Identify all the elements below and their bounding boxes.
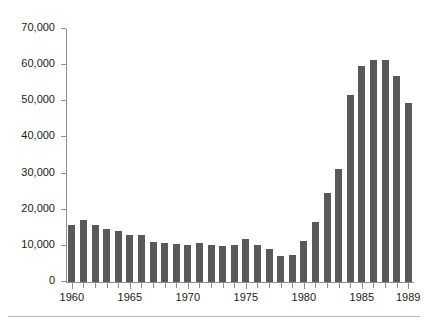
- y-axis-tick: 60,000: [61, 64, 66, 65]
- bar: [347, 95, 354, 282]
- x-axis-major-tick: [246, 283, 247, 289]
- bar: [138, 235, 145, 282]
- x-axis-minor-tick: [397, 283, 398, 288]
- footer-divider: [8, 316, 420, 317]
- chart-figure: 010,00020,00030,00040,00050,00060,00070,…: [0, 0, 428, 327]
- x-axis-tick-label: 1970: [176, 291, 200, 304]
- x-axis-tick-label: 1980: [292, 291, 316, 304]
- bar: [358, 66, 365, 282]
- bar: [289, 255, 296, 282]
- x-axis-major-tick: [362, 283, 363, 289]
- x-axis-minor-tick: [118, 283, 119, 288]
- bar: [161, 243, 168, 282]
- y-axis-tick-label: 60,000: [21, 57, 55, 70]
- x-axis-minor-tick: [327, 283, 328, 288]
- bar: [266, 249, 273, 282]
- y-axis-tick-label: 0: [49, 274, 55, 287]
- y-axis-tick: 40,000: [61, 136, 66, 137]
- x-axis-tick-label: 1989: [396, 291, 420, 304]
- x-axis-minor-tick: [176, 283, 177, 288]
- y-axis-tick: 50,000: [61, 100, 66, 101]
- y-axis-tick-label: 70,000: [21, 21, 55, 34]
- bar: [300, 241, 307, 282]
- x-axis-major-tick: [188, 283, 189, 289]
- bar: [92, 225, 99, 282]
- x-axis-minor-tick: [281, 283, 282, 288]
- x-axis-minor-tick: [165, 283, 166, 288]
- x-axis-minor-tick: [292, 283, 293, 288]
- x-axis-major-tick: [130, 283, 131, 289]
- x-axis-minor-tick: [153, 283, 154, 288]
- x-axis-minor-tick: [257, 283, 258, 288]
- bar: [103, 229, 110, 282]
- bar: [80, 220, 87, 282]
- y-axis-tick-label: 20,000: [21, 202, 55, 215]
- x-axis-minor-tick: [339, 283, 340, 288]
- x-axis-minor-tick: [385, 283, 386, 288]
- y-axis-tick-label: 30,000: [21, 166, 55, 179]
- x-axis-major-tick: [408, 283, 409, 289]
- bar: [184, 245, 191, 282]
- bar: [196, 243, 203, 282]
- x-axis-minor-tick: [199, 283, 200, 288]
- bar: [173, 244, 180, 282]
- bar: [335, 169, 342, 282]
- bar: [254, 245, 261, 282]
- bar: [324, 193, 331, 282]
- bar: [115, 231, 122, 282]
- x-axis-minor-tick: [373, 283, 374, 288]
- bar: [370, 60, 377, 282]
- bar: [231, 245, 238, 282]
- y-axis-tick-label: 10,000: [21, 238, 55, 251]
- y-axis-tick: 0: [61, 281, 66, 282]
- bar: [405, 103, 412, 282]
- x-axis-ticks: 1960196519701975198019851989: [66, 283, 414, 313]
- x-axis-minor-tick: [315, 283, 316, 288]
- plot-area: 010,00020,00030,00040,00050,00060,00070,…: [66, 29, 414, 282]
- bar: [242, 239, 249, 282]
- y-axis-tick: 10,000: [61, 245, 66, 246]
- x-axis-minor-tick: [269, 283, 270, 288]
- bar: [68, 225, 75, 282]
- x-axis-major-tick: [304, 283, 305, 289]
- bar: [382, 60, 389, 282]
- bar: [277, 256, 284, 282]
- x-axis-minor-tick: [350, 283, 351, 288]
- x-axis-minor-tick: [234, 283, 235, 288]
- y-axis-tick-label: 50,000: [21, 93, 55, 106]
- bar: [219, 246, 226, 283]
- x-axis-minor-tick: [211, 283, 212, 288]
- bar: [150, 242, 157, 282]
- y-axis-tick: 30,000: [61, 173, 66, 174]
- y-axis-tick-label: 40,000: [21, 129, 55, 142]
- bar: [126, 235, 133, 282]
- x-axis-minor-tick: [223, 283, 224, 288]
- y-axis-tick: 20,000: [61, 209, 66, 210]
- x-axis-minor-tick: [95, 283, 96, 288]
- x-axis-minor-tick: [107, 283, 108, 288]
- bar: [393, 76, 400, 282]
- x-axis-tick-label: 1960: [60, 291, 84, 304]
- bar: [208, 245, 215, 282]
- y-axis-tick: 70,000: [61, 28, 66, 29]
- x-axis-major-tick: [72, 283, 73, 289]
- x-axis-minor-tick: [141, 283, 142, 288]
- x-axis-minor-tick: [83, 283, 84, 288]
- x-axis-tick-label: 1985: [350, 291, 374, 304]
- bar: [312, 222, 319, 282]
- x-axis-tick-label: 1965: [118, 291, 142, 304]
- x-axis-tick-label: 1975: [234, 291, 258, 304]
